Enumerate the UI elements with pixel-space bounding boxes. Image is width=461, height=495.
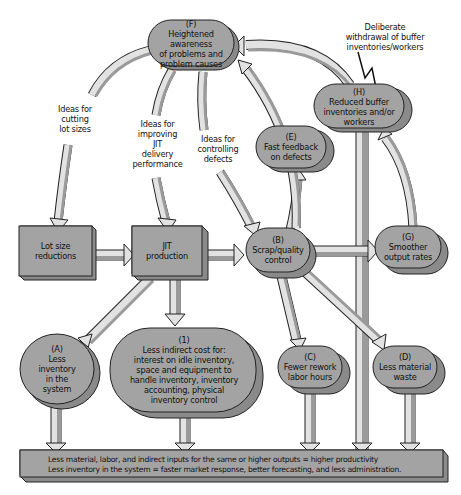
label-line: inventories/workers [330, 42, 440, 52]
node-jit-line: JIT [132, 241, 202, 251]
label-line: defects [188, 154, 248, 164]
label-line: Ideas for [188, 134, 248, 144]
node-a-id: (A) [22, 344, 92, 354]
outcome-line-productivity: Less material, labor, and indirect input… [48, 455, 448, 465]
arrow-h-to-bar [356, 130, 368, 452]
label-line: Ideas for [45, 104, 105, 114]
node-lot-size-text: Lot size reductions [19, 226, 92, 276]
node-f-id: (F) [148, 19, 234, 29]
node-b-line: Scrap/quality [246, 245, 310, 255]
arrow-improving-to-jit [156, 178, 176, 232]
arrow-a-to-bar [46, 405, 66, 453]
node-f-line: problem causes [148, 59, 234, 69]
arrow-b-to-g [310, 240, 378, 262]
node-a-text: (A) Less inventory in the system [22, 336, 92, 402]
arrow-g-to-h [378, 128, 416, 228]
outcome-bar-text: Less material, labor, and indirect input… [48, 455, 448, 474]
node-d-text: (D) Less material waste [373, 346, 437, 388]
arrow-f-to-controlling [202, 72, 207, 130]
node-e-id: (E) [256, 132, 326, 142]
node-a-line: inventory [22, 364, 92, 374]
node-1-line: inventory control [112, 395, 256, 405]
node-1-id: (1) [112, 335, 256, 345]
node-1-line: interest on idle inventory, [112, 355, 256, 365]
node-1-line: accounting, physical [112, 385, 256, 395]
arrow-f-to-cutting [92, 50, 152, 96]
node-c-line: labor hours [278, 372, 342, 382]
node-1-text: (1) Less indirect cost for: interest on … [112, 330, 256, 410]
node-g-id: (G) [375, 232, 441, 242]
node-jit-text: JIT production [132, 226, 202, 276]
node-g-line: output rates [375, 252, 441, 262]
node-d-line: Less material [373, 362, 437, 372]
label-line: Deliberate [330, 22, 440, 32]
label-line: performance [125, 159, 190, 169]
arrow-cutting-to-lot [50, 145, 71, 232]
label-line: improving [125, 129, 190, 139]
node-b-line: control [246, 255, 310, 265]
node-g-line: Smoother [375, 242, 441, 252]
node-h-line: Reduced buffer [314, 97, 404, 107]
node-g-text: (G) Smoother output rates [375, 226, 441, 268]
label-line: Ideas for [125, 119, 190, 129]
node-lot-line: reductions [19, 251, 92, 261]
node-e-line: Fast feedback [256, 142, 326, 152]
node-1-line: Less indirect cost for: [112, 345, 256, 355]
node-d-line: waste [373, 372, 437, 382]
arrow-c-to-bar [300, 390, 320, 453]
label-withdrawal: Deliberate withdrawal of buffer inventor… [330, 22, 440, 52]
node-h-id: (H) [314, 87, 404, 97]
node-a-line: system [22, 384, 92, 394]
node-f-text: (F) Heightened awareness of problems and… [148, 22, 234, 66]
label-cutting: Ideas for cutting lot sizes [45, 104, 105, 134]
lightning-bolt-icon [358, 52, 376, 88]
node-h-line: workers [314, 117, 404, 127]
node-d-id: (D) [373, 352, 437, 362]
label-line: lot sizes [45, 124, 105, 134]
arrow-controlling-to-b [220, 171, 260, 236]
arrow-jit-to-1 [165, 278, 185, 326]
outcome-line-inventory: Less inventory in the system = faster ma… [48, 465, 448, 475]
node-1-line: handle inventory, inventory [112, 375, 256, 385]
label-line: delivery [125, 149, 190, 159]
node-f-line: Heightened awareness [148, 29, 234, 49]
arrow-b-to-c [280, 270, 306, 350]
node-c-id: (C) [278, 352, 342, 362]
node-f-line: of problems and [148, 49, 234, 59]
node-a-line: in the [22, 374, 92, 384]
node-jit-line: production [132, 251, 202, 261]
label-line: cutting [45, 114, 105, 124]
node-h-line: inventories and/or [314, 107, 404, 117]
node-a-line: Less [22, 354, 92, 364]
node-h-text: (H) Reduced buffer inventories and/or wo… [314, 86, 404, 128]
node-c-text: (C) Fewer rework labor hours [278, 346, 342, 388]
node-1-line: space and equipment to [112, 365, 256, 375]
label-controlling: Ideas for controlling defects [188, 134, 248, 164]
label-line: controlling [188, 144, 248, 154]
label-line: withdrawal of buffer [330, 32, 440, 42]
arrow-d-to-bar [400, 390, 420, 453]
node-e-text: (E) Fast feedback on defects [256, 126, 326, 168]
node-e-line: on defects [256, 152, 326, 162]
arrow-b-to-d [300, 265, 386, 350]
arrow-lot-to-jit [92, 244, 134, 266]
label-improving: Ideas for improving JIT delivery perform… [125, 119, 190, 169]
node-b-id: (B) [246, 235, 310, 245]
node-b-text: (B) Scrap/quality control [246, 228, 310, 272]
node-lot-line: Lot size [19, 241, 92, 251]
node-c-line: Fewer rework [278, 362, 342, 372]
label-line: JIT [125, 139, 190, 149]
arrow-f-to-improving [156, 70, 175, 115]
